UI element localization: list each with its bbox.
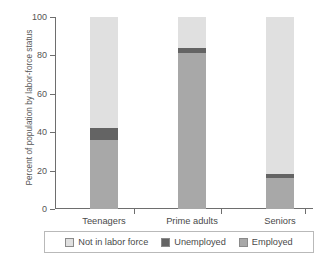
bar-segment bbox=[90, 140, 118, 209]
bar-segment bbox=[178, 53, 206, 209]
stacked-bar bbox=[178, 17, 206, 209]
legend-label: Unemployed bbox=[174, 237, 226, 247]
bar-segment bbox=[266, 17, 294, 174]
y-axis-tick-label: 0 bbox=[42, 204, 47, 214]
legend-label: Employed bbox=[252, 237, 293, 247]
x-axis-category-label: Seniors bbox=[264, 216, 296, 226]
x-axis-category-label: Teenagers bbox=[82, 216, 125, 226]
y-axis-tick-label: 20 bbox=[37, 166, 47, 176]
y-axis-tick bbox=[50, 17, 55, 18]
legend-swatch-icon bbox=[239, 238, 248, 247]
y-axis-tick bbox=[50, 55, 55, 56]
x-axis-category-label: Prime adults bbox=[166, 216, 218, 226]
x-axis-tick bbox=[134, 209, 135, 214]
y-axis-line bbox=[55, 17, 56, 209]
y-axis-tick-label: 60 bbox=[37, 89, 47, 99]
y-axis-tick-label: 80 bbox=[37, 50, 47, 60]
y-axis-tick bbox=[50, 94, 55, 95]
y-axis-tick bbox=[50, 209, 55, 210]
legend-swatch-icon bbox=[65, 238, 74, 247]
stacked-bar bbox=[90, 17, 118, 209]
legend-item[interactable]: Employed bbox=[239, 237, 293, 247]
y-axis-tick bbox=[50, 171, 55, 172]
bar-segment bbox=[90, 17, 118, 128]
legend-item[interactable]: Unemployed bbox=[161, 237, 226, 247]
stacked-bar bbox=[266, 17, 294, 209]
chart-legend: Not in labor forceUnemployedEmployed bbox=[44, 231, 314, 253]
x-axis-tick bbox=[305, 209, 306, 214]
legend-swatch-icon bbox=[161, 238, 170, 247]
legend-label: Not in labor force bbox=[78, 237, 148, 247]
y-axis-title: Percent of population by labor-force sta… bbox=[25, 8, 34, 208]
plot-area: 020406080100 TeenagersPrime adultsSenior… bbox=[55, 17, 313, 209]
legend-item[interactable]: Not in labor force bbox=[65, 237, 148, 247]
x-axis-tick bbox=[221, 209, 222, 214]
bar-segment bbox=[178, 17, 206, 48]
y-axis-tick-label: 40 bbox=[37, 127, 47, 137]
bar-segment bbox=[90, 128, 118, 140]
y-axis-tick bbox=[50, 132, 55, 133]
y-axis-tick-label: 100 bbox=[32, 12, 47, 22]
stacked-bar-chart: Percent of population by labor-force sta… bbox=[0, 0, 325, 262]
bar-segment bbox=[266, 178, 294, 209]
